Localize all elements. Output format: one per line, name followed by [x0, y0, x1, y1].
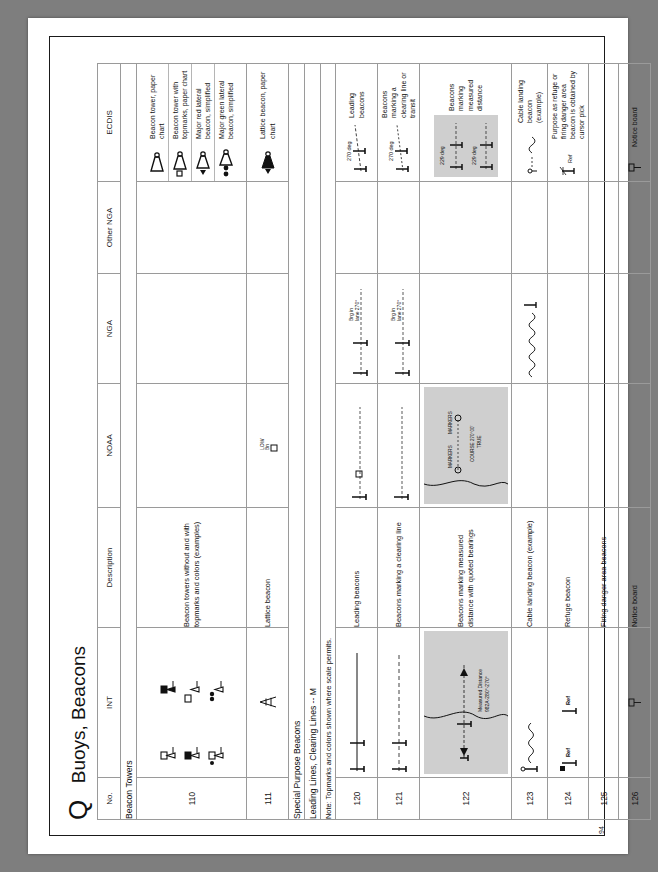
- svg-text:229 deg: 229 deg: [471, 146, 477, 165]
- ecdis-item: Major red lateral beacon, simplified: [192, 64, 215, 181]
- svg-text:Bn: Bn: [264, 444, 270, 450]
- row-number: 123: [512, 778, 548, 820]
- row-number: 122: [420, 778, 512, 820]
- page-title: Buoys, Beacons: [68, 646, 90, 783]
- row-number: 121: [378, 778, 420, 820]
- ecdis-item: Notice board: [624, 64, 646, 181]
- other-nga-cell-121: [378, 182, 420, 274]
- group-row-special-purpose: Special Purpose Beacons: [289, 64, 305, 820]
- svg-text:MARKERS: MARKERS: [448, 411, 453, 434]
- other-nga-cell-120: [336, 182, 378, 274]
- svg-text:Measured Distance: Measured Distance: [477, 669, 483, 712]
- table-header-row: No. INT Description NOAA NGA Other NGA E…: [98, 64, 121, 820]
- noaa-cell-125: [589, 384, 619, 508]
- table-row: 111 Lattice beacon LOW Bn: [247, 64, 289, 820]
- ecdis-label: Major red lateral beacon, simplified: [194, 68, 212, 139]
- ecdis-label: Major green lateral beacon, simplified: [217, 68, 235, 139]
- row-number: 111: [247, 778, 289, 820]
- svg-text:TRUE: TRUE: [477, 435, 482, 448]
- ecdis-label: Beacons marking measured distance: [447, 68, 483, 111]
- ecdis-item: Cable landing beacon (example): [514, 64, 545, 181]
- ecdis-cell-124: Ref Purpose as refuge or firing danger a…: [548, 64, 589, 182]
- col-header-nga: NGA: [98, 274, 121, 384]
- ecdis-cell-123: Cable landing beacon (example): [512, 64, 548, 182]
- row-number: 110: [137, 778, 247, 820]
- row-description: Refuge beacon: [548, 508, 589, 628]
- col-header-no: No.: [98, 778, 121, 820]
- ecdis-label: Cable landing beacon (example): [516, 68, 543, 123]
- ecdis-item: 270 deg Beacons marking a clearing line …: [378, 64, 418, 181]
- table-row: 120 Leading beacons: [336, 64, 378, 820]
- svg-text:229 deg: 229 deg: [439, 146, 445, 165]
- table-row: 126 Notice board: [619, 64, 651, 820]
- row-description: Leading beacons: [336, 508, 378, 628]
- ecdis-label: Beacon tower, paper chart: [148, 68, 166, 139]
- ecdis-cell-111: Lattice beacon, paper chart: [247, 64, 289, 182]
- noaa-cell-126: [619, 384, 651, 508]
- other-nga-cell-122: [420, 182, 512, 274]
- int-symbols-111: [247, 628, 289, 778]
- ecdis-item: Lattice beacon, paper chart: [256, 64, 278, 181]
- nga-cell-122: [420, 274, 512, 384]
- other-nga-cell-110: [137, 182, 247, 274]
- nga-cell-111: [247, 274, 289, 384]
- page-number: 94: [598, 826, 605, 834]
- symbol-table: No. INT Description NOAA NGA Other NGA E…: [97, 63, 651, 820]
- svg-text:Ref: Ref: [567, 154, 573, 163]
- page-title-block: Q Buoys, Beacons: [63, 646, 94, 820]
- ecdis-item: Major green lateral beacon, simplified: [215, 64, 237, 181]
- group-heading-beacon-towers: Beacon Towers: [121, 64, 137, 820]
- ecdis-label: Leading beacons: [347, 68, 365, 118]
- ecdis-cell-122: 229 deg 229 deg: [420, 64, 512, 182]
- ecdis-label: Lattice beacon, paper chart: [258, 68, 276, 139]
- int-symbols-121: [378, 628, 420, 778]
- int-symbols-122: Measured Distance 982A-280°-270°: [420, 628, 512, 778]
- row-description: Cable landing beacon (example): [512, 508, 548, 628]
- int-symbols-125: [589, 628, 619, 778]
- table-row: 122 Measured Distance 982A-: [420, 64, 512, 820]
- ecdis-cell-110: Beacon tower, paper chart Beacon tower w…: [137, 64, 247, 182]
- group-heading-special-purpose: Special Purpose Beacons: [289, 64, 305, 820]
- ecdis-label: Purpose as refuge or firing danger area …: [550, 68, 586, 139]
- row-description: Beacon towers without and with topmarks …: [137, 508, 247, 628]
- table-row: 123 Cable landing beacon (example): [512, 64, 548, 820]
- table-row: 125 Firing danger area beacons: [589, 64, 619, 820]
- table-row: 124 Ref Ref Refuge beacon: [548, 64, 589, 820]
- row-description: Beacons marking a clearing line: [378, 508, 420, 628]
- row-description: Beacons marking measured distance with q…: [420, 508, 512, 628]
- note-topmarks: Note: Topmarks and colors shown where sc…: [321, 64, 336, 820]
- nga-cell-126: [619, 274, 651, 384]
- nga-cell-124: [548, 274, 589, 384]
- noaa-cell-111: LOW Bn: [247, 384, 289, 508]
- col-header-ecdis: ECDIS: [98, 64, 121, 182]
- noaa-cell-120: [336, 384, 378, 508]
- col-header-other-nga: Other NGA: [98, 182, 121, 274]
- ecdis-cell-125: [589, 64, 619, 182]
- other-nga-cell-111: [247, 182, 289, 274]
- ecdis-cell-126: Notice board: [619, 64, 651, 182]
- other-nga-cell-124: [548, 182, 589, 274]
- svg-text:270 deg: 270 deg: [346, 142, 352, 162]
- svg-text:982A-280°-270°: 982A-280°-270°: [484, 676, 490, 712]
- svg-text:Ref: Ref: [565, 696, 571, 705]
- group-heading-leading-lines: Leading Lines, Clearing Lines -- M: [305, 64, 321, 820]
- ecdis-label: Beacon tower with topmarks, paper chart: [171, 68, 189, 139]
- ecdis-label: Beacons marking a clearing line or trans…: [380, 68, 416, 118]
- nga-cell-121: Brg in lane 270°: [378, 274, 420, 384]
- svg-text:lane 270°: lane 270°: [354, 300, 360, 321]
- row-number: 124: [548, 778, 589, 820]
- group-row-leading-lines: Leading Lines, Clearing Lines -- M: [305, 64, 321, 820]
- svg-text:lane 270°: lane 270°: [396, 300, 402, 321]
- nga-cell-123: [512, 274, 548, 384]
- int-symbols-126: [619, 628, 651, 778]
- group-row-beacon-towers: Beacon Towers: [121, 64, 137, 820]
- ecdis-cell-120: 270 deg Leading beacons: [336, 64, 378, 182]
- ecdis-label: Notice board: [630, 107, 639, 147]
- nga-cell-120: Brg in lane 270°: [336, 274, 378, 384]
- section-letter: Q: [63, 799, 94, 820]
- noaa-cell-110: [137, 384, 247, 508]
- int-symbols-120: [336, 628, 378, 778]
- row-number: 120: [336, 778, 378, 820]
- col-header-int: INT: [98, 628, 121, 778]
- noaa-cell-123: [512, 384, 548, 508]
